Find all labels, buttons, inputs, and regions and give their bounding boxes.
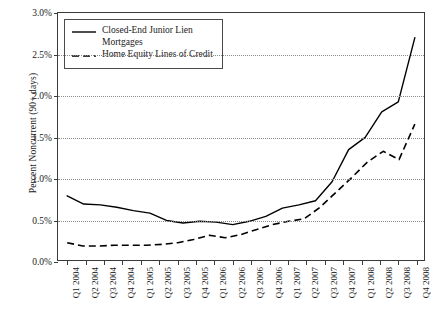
y-axis-tick-label: 2.0% — [32, 91, 52, 101]
y-axis-tick-label: 1.0% — [32, 174, 52, 184]
legend-dashed-line-icon — [71, 50, 97, 62]
y-axis-tick-label: 0.5% — [32, 216, 52, 226]
x-axis-tick-mark — [214, 260, 215, 265]
y-axis-tick-label: 1.5% — [32, 133, 52, 143]
y-axis-tick-mark — [54, 13, 58, 14]
plot-area: Closed-End Junior Lien Mortgages Home Eq… — [57, 12, 425, 261]
x-axis-tick-label: Q3 2007 — [329, 267, 339, 298]
y-axis-tick-mark — [54, 221, 58, 222]
x-axis-tick-label: Q3 2008 — [402, 267, 412, 298]
legend-label-line1: Closed-End Junior Lien — [102, 25, 193, 35]
x-axis-tick-label: Q4 2008 — [421, 267, 431, 298]
legend-label-line2: Mortgages — [102, 37, 143, 47]
y-axis-tick-label: 2.5% — [32, 50, 52, 60]
x-axis-tick-label: Q4 2005 — [200, 267, 210, 298]
x-axis-tick-mark — [417, 260, 418, 265]
chart-page: Percent Noncurrent (90+ days) Closed-End… — [0, 0, 437, 317]
chart-legend: Closed-End Junior Lien Mortgages Home Eq… — [64, 19, 223, 69]
x-axis-tick-label: Q1 2006 — [218, 267, 228, 298]
series-line-home-equity-lines-of-credit — [67, 124, 415, 246]
y-axis-tick-mark — [54, 262, 58, 263]
y-axis-tick-mark — [54, 55, 58, 56]
x-axis-tick-label: Q4 2006 — [274, 267, 284, 298]
x-axis-tick-mark — [233, 260, 234, 265]
x-axis-tick-mark — [306, 260, 307, 265]
y-axis-tick-mark — [54, 96, 58, 97]
x-axis-tick-mark — [325, 260, 326, 265]
x-axis-tick-label: Q2 2004 — [90, 267, 100, 298]
x-axis-tick-mark — [288, 260, 289, 265]
x-axis-tick-label: Q3 2005 — [182, 267, 192, 298]
y-axis-tick-label: 0.0% — [32, 257, 52, 267]
x-axis-tick-mark — [362, 260, 363, 265]
x-axis-tick-label: Q2 2007 — [310, 267, 320, 298]
x-axis-tick-label: Q4 2007 — [347, 267, 357, 298]
x-axis-tick-mark — [104, 260, 105, 265]
x-axis-tick-mark — [141, 260, 142, 265]
x-axis-tick-mark — [159, 260, 160, 265]
x-axis-tick-label: Q3 2004 — [108, 267, 118, 298]
x-axis-tick-mark — [380, 260, 381, 265]
x-axis-tick-label: Q1 2004 — [71, 267, 81, 298]
gridline-horizontal — [58, 179, 424, 180]
x-axis-tick-label: Q4 2004 — [126, 267, 136, 298]
x-axis-tick-label: Q1 2008 — [366, 267, 376, 298]
y-axis-tick-mark — [54, 179, 58, 180]
x-axis-tick-mark — [122, 260, 123, 265]
x-axis-tick-mark — [251, 260, 252, 265]
gridline-horizontal — [58, 221, 424, 222]
x-axis-tick-label: Q1 2005 — [145, 267, 155, 298]
x-axis-tick-label: Q2 2005 — [163, 267, 173, 298]
x-axis-tick-mark — [270, 260, 271, 265]
x-axis-tick-label: Q3 2006 — [255, 267, 265, 298]
y-axis-tick-label: 3.0% — [32, 8, 52, 18]
gridline-horizontal — [58, 138, 424, 139]
x-axis-tick-mark — [196, 260, 197, 265]
x-axis-tick-label: Q1 2007 — [292, 267, 302, 298]
x-axis-tick-mark — [343, 260, 344, 265]
gridline-horizontal — [58, 55, 424, 56]
x-axis-tick-label: Q2 2008 — [384, 267, 394, 298]
gridline-horizontal — [58, 96, 424, 97]
legend-item-closed-end-junior-lien-mortgages: Closed-End Junior Lien Mortgages — [71, 25, 216, 48]
y-axis-tick-mark — [54, 138, 58, 139]
legend-item-home-equity-lines-of-credit: Home Equity Lines of Credit — [71, 49, 216, 62]
x-axis-tick-label: Q2 2006 — [237, 267, 247, 298]
x-axis-tick-mark — [86, 260, 87, 265]
x-axis-tick-mark — [67, 260, 68, 265]
legend-solid-line-icon — [71, 26, 97, 38]
legend-label-group: Closed-End Junior Lien Mortgages — [102, 25, 193, 48]
x-axis-tick-mark — [398, 260, 399, 265]
x-axis-tick-mark — [178, 260, 179, 265]
